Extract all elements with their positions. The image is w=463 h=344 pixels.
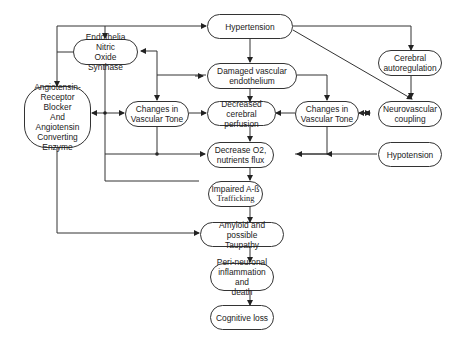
node-cerebral-autoregulation: Cerebral autoregulation [378, 50, 442, 76]
node-inflammation-label: Peri-neuronal inflammation and death [213, 257, 271, 297]
node-neurovascular-coupling-label: Neurovascular coupling [383, 104, 437, 124]
node-vascular-tone-left-label: Changes in Vascular Tone [131, 104, 183, 124]
node-damaged-endothelium: Damaged vascular endothelium [207, 63, 297, 89]
node-enos-label: Endothelia Nitric Oxide Synthase [76, 32, 135, 72]
node-hypotension-label: Hypotension [387, 150, 434, 160]
node-decrease-o2: Decrease O2, nutrients flux [207, 142, 274, 168]
node-hypotension: Hypotension [378, 142, 442, 167]
node-vascular-tone-right-label: Changes in Vascular Tone [301, 104, 353, 124]
node-impaired-ab-label-2: Trafficking [217, 194, 255, 204]
node-enos: Endothelia Nitric Oxide Synthase [73, 39, 138, 65]
node-impaired-ab-label: Impaired A-ß [212, 184, 260, 194]
node-impaired-ab: Impaired A-ß Trafficking [208, 181, 263, 207]
node-cerebral-autoregulation-label: Cerebral autoregulation [383, 53, 436, 73]
diagram-canvas: Hypertension Endothelia Nitric Oxide Syn… [0, 0, 463, 344]
node-decrease-o2-label: Decrease O2, nutrients flux [215, 145, 267, 165]
node-amyloid-label: Amyloid and possible Taupathy [203, 220, 281, 250]
node-cognitive-loss-label: Cognitive loss [216, 313, 268, 323]
node-vascular-tone-right: Changes in Vascular Tone [295, 101, 359, 127]
node-hypertension-label: Hypertension [225, 22, 274, 32]
node-damaged-endothelium-label: Damaged vascular endothelium [217, 66, 287, 86]
node-arb-ace-label: Angiotensin- Receptor Blocker And Angiot… [27, 82, 88, 152]
node-hypertension: Hypertension [207, 14, 293, 39]
node-cognitive-loss: Cognitive loss [210, 305, 274, 330]
node-amyloid: Amyloid and possible Taupathy [200, 222, 284, 247]
node-neurovascular-coupling: Neurovascular coupling [378, 101, 442, 127]
node-inflammation: Peri-neuronal inflammation and death [210, 263, 274, 291]
node-decreased-perfusion-label: Decreased cerebral perfusion [210, 99, 273, 129]
node-vascular-tone-left: Changes in Vascular Tone [125, 101, 189, 127]
node-arb-ace: Angiotensin- Receptor Blocker And Angiot… [24, 86, 91, 148]
node-decreased-perfusion: Decreased cerebral perfusion [207, 101, 276, 126]
